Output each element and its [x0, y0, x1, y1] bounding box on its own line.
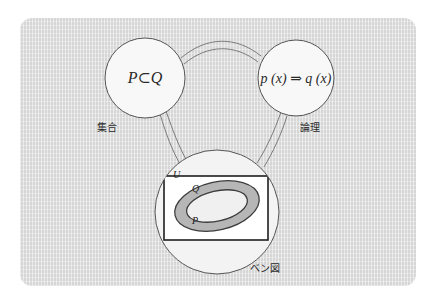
connector-set-to-venn [160, 111, 187, 164]
figure-stage: logic-node : arc bowing upward --> venn-… [0, 0, 434, 302]
venn-diagram [164, 173, 268, 240]
connector-logic-to-venn [257, 112, 287, 167]
node-set[interactable]: P⊂Q [105, 38, 185, 118]
concept-map-diagram: logic-node : arc bowing upward --> venn-… [0, 0, 434, 302]
venn-node-caption: ベン図 [250, 263, 280, 274]
logic-node-formula: p (x) ⇒ q (x) [260, 71, 332, 87]
set-node-formula: P⊂Q [127, 69, 163, 86]
node-logic[interactable]: p (x) ⇒ q (x) [258, 40, 334, 116]
node-venn[interactable]: U Q P [155, 150, 279, 274]
logic-node-caption: 論理 [300, 121, 320, 133]
set-node-caption: 集合 [97, 121, 117, 133]
venn-inner-label-p: P [191, 215, 198, 226]
connector-set-to-logic [181, 41, 261, 64]
venn-universe-label: U [173, 169, 181, 180]
venn-outer-label-q: Q [192, 183, 200, 194]
